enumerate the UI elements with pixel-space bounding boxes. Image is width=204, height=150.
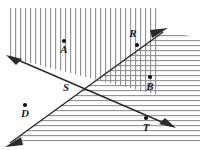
point-D[interactable]: D [20, 103, 29, 119]
point-B-dot [148, 75, 152, 79]
point-A-label: A [59, 43, 67, 55]
point-B-label: B [145, 80, 153, 92]
figure-canvas: A R B S D T [0, 0, 204, 150]
point-S-label: S [63, 81, 69, 93]
point-R-dot [135, 43, 139, 47]
point-S[interactable]: S [63, 81, 69, 93]
point-T-dot [144, 116, 148, 120]
geometry-figure: A R B S D T [0, 0, 204, 150]
point-R-label: R [128, 27, 136, 39]
ascending-line-arrow-left [5, 137, 23, 147]
point-D-label: D [20, 107, 29, 119]
